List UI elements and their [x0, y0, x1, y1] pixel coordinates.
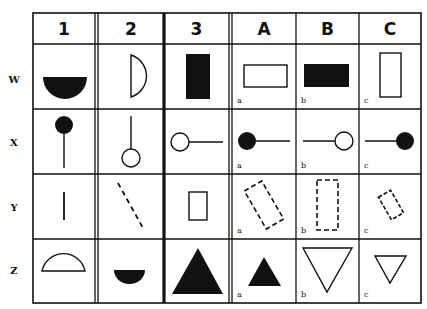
xa-filled-circle [238, 132, 256, 150]
wb-filled-wide-rect [304, 64, 349, 87]
zc-small-outline-inverted-triangle [375, 256, 406, 283]
wc-outline-tall-rect [380, 53, 401, 97]
x3-outline-circle [171, 133, 189, 151]
ya-dashed-tilted-rect [244, 181, 283, 229]
xc-filled-circle [396, 132, 414, 150]
zb-large-outline-inverted-triangle [303, 248, 352, 292]
yb-dashed-upright-rect [317, 180, 338, 230]
matrix-puzzle: 1 2 3 A B C W X Y Z a b c a b c a b c a … [0, 0, 427, 309]
w2-right-half-circle-outline [131, 55, 146, 97]
yc-small-dashed-tilted-rect [378, 190, 403, 220]
z2-small-filled-lower-semicircle [114, 270, 145, 284]
y3-small-outline-rect [189, 192, 207, 220]
x2-outline-circle [122, 149, 140, 167]
z3-large-filled-triangle [172, 248, 223, 294]
w1-filled-lower-semicircle [43, 77, 87, 99]
wa-outline-wide-rect [244, 65, 287, 87]
xb-outline-circle [335, 132, 353, 150]
y2-dashed-diagonal [118, 183, 143, 228]
za-small-filled-triangle [248, 257, 281, 286]
shapes-layer [0, 0, 427, 309]
z1-upper-semicircle-outline [42, 254, 85, 271]
w3-filled-tall-rect [186, 54, 210, 99]
